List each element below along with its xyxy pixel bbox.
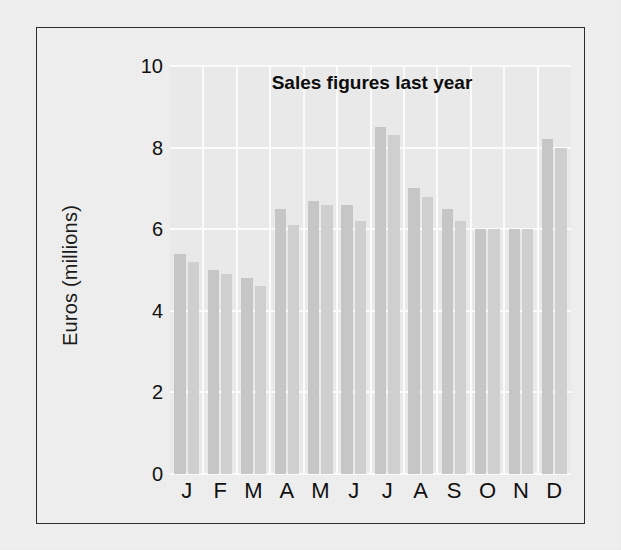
bar-group (208, 66, 233, 474)
chart-title-container: Sales figures last year (207, 72, 537, 100)
x-tick-label: D (546, 478, 562, 504)
y-tick-label: 6 (123, 218, 163, 241)
x-tick-label: J (181, 478, 192, 504)
x-tick-label: F (213, 478, 226, 504)
y-tick-label: 2 (123, 381, 163, 404)
bar (341, 205, 352, 474)
bar (388, 135, 399, 474)
y-axis-tick-labels: 0246810 (115, 66, 163, 474)
bar (355, 221, 366, 474)
bar-group (241, 66, 266, 474)
x-tick-label: J (348, 478, 359, 504)
bar (241, 278, 252, 474)
bar (408, 188, 419, 474)
chart-title: Sales figures last year (207, 72, 537, 94)
bar (321, 205, 332, 474)
bar (522, 229, 533, 474)
bar (442, 209, 453, 474)
y-axis-title: Euros (millions) (55, 28, 85, 523)
bar (208, 270, 219, 474)
bar-group (475, 66, 500, 474)
bar-group (442, 66, 467, 474)
x-tick-label: A (280, 478, 295, 504)
bar (509, 229, 520, 474)
x-tick-label: A (413, 478, 428, 504)
bar (221, 274, 232, 474)
bar (275, 209, 286, 474)
bar (542, 139, 553, 474)
x-tick-label: O (479, 478, 496, 504)
bar-group (509, 66, 534, 474)
bar-group (275, 66, 300, 474)
bar-group (542, 66, 567, 474)
y-axis-title-label: Euros (millions) (59, 205, 82, 346)
x-tick-label: N (513, 478, 529, 504)
bar (255, 286, 266, 474)
bar-group (174, 66, 199, 474)
figure-frame: Euros (millions) 0246810 Sales figures l… (36, 27, 585, 524)
x-axis-tick-labels: JFMAMJJASOND (170, 478, 571, 514)
y-tick-label: 4 (123, 299, 163, 322)
x-tick-label: M (244, 478, 262, 504)
bar (188, 262, 199, 474)
x-tick-label: M (311, 478, 329, 504)
bar (555, 148, 566, 474)
bar-group (408, 66, 433, 474)
y-tick-label: 8 (123, 136, 163, 159)
bar (475, 229, 486, 474)
bar (488, 229, 499, 474)
bar (308, 201, 319, 474)
bar-chart: Euros (millions) 0246810 Sales figures l… (37, 28, 584, 523)
bar (174, 254, 185, 474)
bar-group (308, 66, 333, 474)
y-tick-label: 10 (123, 55, 163, 78)
bar-group (375, 66, 400, 474)
bar (288, 225, 299, 474)
bar-group (341, 66, 366, 474)
bar (455, 221, 466, 474)
bar (422, 197, 433, 474)
bars-layer (170, 66, 571, 474)
x-tick-label: J (382, 478, 393, 504)
y-tick-label: 0 (123, 463, 163, 486)
bar (375, 127, 386, 474)
plot-area (170, 66, 571, 474)
x-tick-label: S (447, 478, 462, 504)
